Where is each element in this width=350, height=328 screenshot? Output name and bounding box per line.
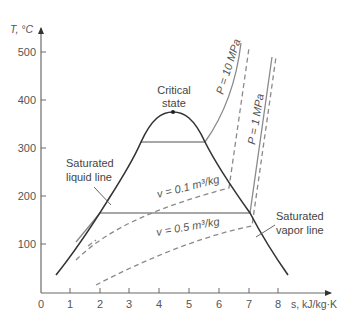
x-tick-label: 2: [97, 298, 103, 310]
y-ticks: 500 400 300 200 100: [18, 46, 46, 250]
x-tick-label: 3: [126, 298, 132, 310]
x-tick-label: 7: [246, 298, 252, 310]
saturated-vapor-label: vapor line: [276, 224, 324, 236]
sat-vapor-leader: [256, 225, 275, 237]
x-tick-label: 8: [275, 298, 281, 310]
saturated-liquid-label: liquid line: [66, 171, 112, 183]
x-tick-label: 5: [186, 298, 192, 310]
ts-diagram: 500 400 300 200 100 0 1 2 3 4 5 6 7 8 T,: [0, 0, 350, 328]
critical-state-label: Critical: [157, 84, 191, 96]
p-10mpa-label: P = 10 MPa: [213, 37, 242, 95]
critical-point: [171, 110, 175, 114]
x-tick-label: 1: [67, 298, 73, 310]
axes: 500 400 300 200 100 0 1 2 3 4 5 6 7 8 T,: [10, 23, 337, 310]
v-0-1-label: v = 0.1 m³/kg: [156, 173, 222, 200]
y-tick-label: 400: [18, 94, 36, 106]
x-axis-label: s, kJ/kg·K: [291, 298, 337, 310]
y-axis-label: T, °C: [10, 23, 33, 35]
v-0-5-label: v = 0.5 m³/kg: [155, 215, 221, 238]
x-tick-label: 0: [38, 298, 44, 310]
critical-state-label: state: [162, 97, 186, 109]
y-tick-label: 100: [18, 238, 36, 250]
x-tick-label: 4: [156, 298, 162, 310]
saturated-vapor-label: Saturated: [276, 210, 324, 222]
y-tick-label: 500: [18, 46, 36, 58]
sat-liquid-leader: [94, 187, 111, 205]
x-tick-label: 6: [216, 298, 222, 310]
y-tick-label: 200: [18, 190, 36, 202]
isobar-p-1mpa-short-dash: [88, 240, 96, 246]
saturated-liquid-label: Saturated: [66, 157, 114, 169]
x-ticks: 0 1 2 3 4 5 6 7 8: [38, 288, 281, 310]
y-tick-label: 300: [18, 142, 36, 154]
